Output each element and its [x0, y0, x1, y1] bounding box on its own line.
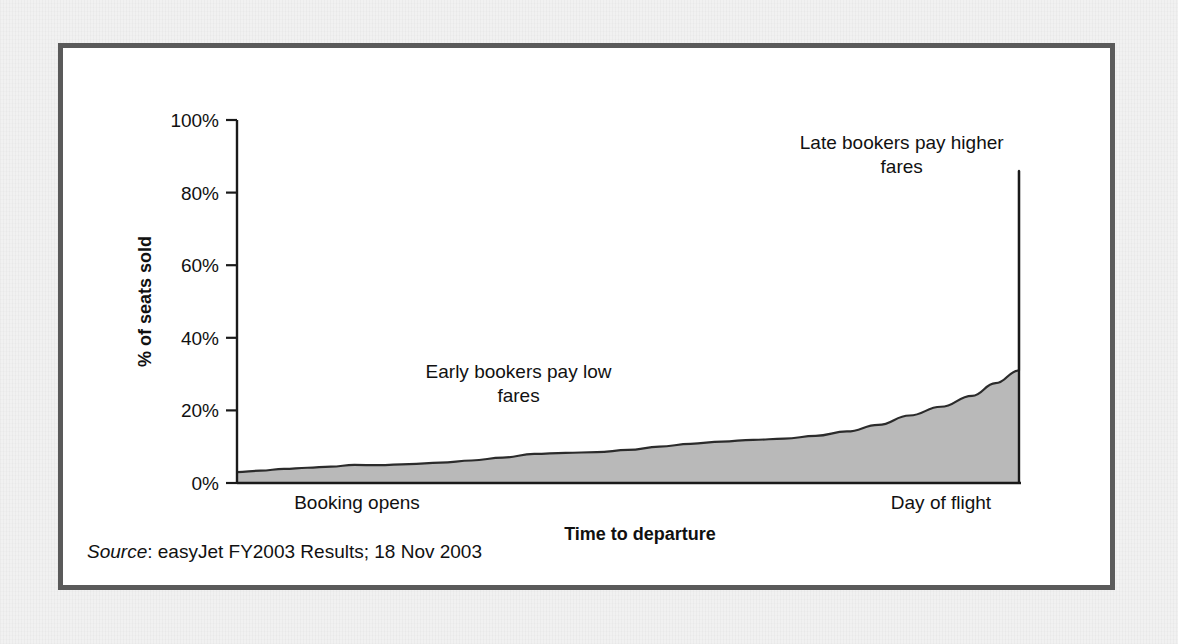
booking-profile-chart: 0%20%40%60%80%100% % of seats sold Booki… [63, 48, 1110, 585]
source-label: Source [87, 541, 147, 562]
y-tick-label: 80% [181, 183, 219, 204]
y-tick-label: 60% [181, 255, 219, 276]
x-axis-title: Time to departure [564, 524, 716, 544]
x-category-label: Day of flight [891, 492, 992, 513]
annotation-line: Early bookers pay low [426, 361, 612, 382]
page-background: Booking profile 0%20%40%60%80%100% % of … [0, 0, 1178, 644]
annotation-line: fares [497, 385, 539, 406]
source-line: Source: easyJet FY2003 Results; 18 Nov 2… [87, 541, 482, 563]
annotation-line: fares [881, 156, 923, 177]
x-category-label: Booking opens [294, 492, 420, 513]
y-axis-title: % of seats sold [135, 236, 155, 367]
annotation-line: Late bookers pay higher [800, 132, 1005, 153]
chart-svg: 0%20%40%60%80%100% % of seats sold Booki… [63, 48, 1110, 585]
y-tick-label: 100% [170, 110, 219, 131]
slide-frame: Booking profile 0%20%40%60%80%100% % of … [58, 43, 1115, 590]
y-tick-label: 0% [192, 473, 220, 494]
source-text: : easyJet FY2003 Results; 18 Nov 2003 [147, 541, 482, 562]
y-tick-label: 20% [181, 400, 219, 421]
y-tick-label: 40% [181, 328, 219, 349]
